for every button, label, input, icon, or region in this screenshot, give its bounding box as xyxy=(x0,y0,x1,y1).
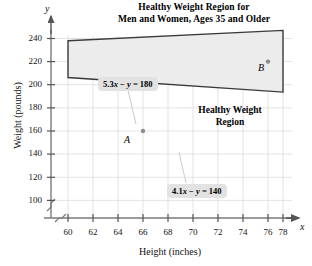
leader-line-upper-equation xyxy=(128,90,136,124)
upper-eq-equals: = xyxy=(131,79,140,89)
healthy-weight-region-chart: Healthy Weight Region for Men and Women,… xyxy=(0,0,312,266)
lower-eq-rhs: 140 xyxy=(209,186,222,196)
upper-eq-minus: − xyxy=(118,79,127,89)
lower-eq-equals: = xyxy=(200,186,209,196)
x-tick-label-64: 64 xyxy=(107,227,129,237)
y-tick-label-240: 240 xyxy=(18,33,42,43)
y-tick-label-220: 220 xyxy=(18,56,42,66)
x-tick-label-78: 78 xyxy=(272,227,294,237)
lower-boundary-equation-callout: 4.1x − y = 140 xyxy=(167,184,227,198)
x-tick-label-74: 74 xyxy=(232,227,254,237)
x-axis-variable: x xyxy=(300,221,304,232)
region-label-line-2: Region xyxy=(216,117,245,127)
x-axis-title: Height (inches) xyxy=(100,246,240,257)
x-tick-label-70: 70 xyxy=(182,227,204,237)
leader-line-lower-equation xyxy=(179,152,186,183)
x-tick-label-72: 72 xyxy=(207,227,229,237)
y-tick-label-120: 120 xyxy=(18,172,42,182)
upper-eq-coef: 5.3 xyxy=(103,79,114,89)
upper-boundary-equation-callout: 5.3x − y = 180 xyxy=(98,77,158,91)
data-point-b xyxy=(266,59,270,63)
data-point-a-label: A xyxy=(124,134,130,145)
lower-eq-coef: 4.1 xyxy=(172,186,183,196)
upper-eq-rhs: 180 xyxy=(140,79,153,89)
lower-eq-minus: − xyxy=(187,186,196,196)
x-tick-label-62: 62 xyxy=(82,227,104,237)
x-tick-label-60: 60 xyxy=(57,227,79,237)
y-axis-variable: y xyxy=(45,3,49,14)
y-axis-title: Weight (pounds) xyxy=(12,66,23,166)
region-label-line-1: Healthy Weight xyxy=(198,105,261,115)
data-point-b-label: B xyxy=(258,62,264,73)
x-tick-label-68: 68 xyxy=(157,227,179,237)
healthy-weight-region-label: Healthy Weight Region xyxy=(176,104,284,128)
x-tick-label-66: 66 xyxy=(132,227,154,237)
y-tick-label-100: 100 xyxy=(18,195,42,205)
data-point-a xyxy=(141,129,145,133)
